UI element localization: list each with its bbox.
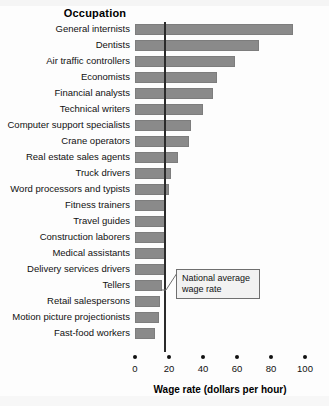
bar xyxy=(135,328,155,339)
bar xyxy=(135,152,178,163)
bar-row-label: Delivery services drivers xyxy=(27,262,130,276)
bar-row: Fitness trainers xyxy=(135,200,305,211)
bar xyxy=(135,280,162,291)
bar-row: Word processors and typists xyxy=(135,184,305,195)
bar xyxy=(135,200,166,211)
bar xyxy=(135,296,160,307)
bar xyxy=(135,312,159,323)
bar-row: Dentists xyxy=(135,40,305,51)
bar-row: Computer support specialists xyxy=(135,120,305,131)
x-axis-tick-label: 20 xyxy=(156,363,182,374)
bar-row-label: Technical writers xyxy=(60,102,130,116)
bar-row-label: Medical assistants xyxy=(52,246,130,260)
x-axis-tick-dot xyxy=(201,355,205,359)
bar xyxy=(135,248,165,259)
annotation-callout: National average wage rate xyxy=(176,269,260,299)
x-axis-tick-label: 60 xyxy=(224,363,250,374)
bar-row-label: Crane operators xyxy=(61,134,130,148)
bar xyxy=(135,56,235,67)
bar-row: Medical assistants xyxy=(135,248,305,259)
bar xyxy=(135,232,165,243)
bar-row: Truck drivers xyxy=(135,168,305,179)
bar-row-label: Truck drivers xyxy=(75,166,130,180)
x-axis-tick: 40 xyxy=(190,355,216,374)
x-axis-tick: 0 xyxy=(122,355,148,374)
bar-row: Financial analysts xyxy=(135,88,305,99)
bar xyxy=(135,264,165,275)
annotation-line-2: wage rate xyxy=(182,284,254,295)
x-axis-tick-dot xyxy=(235,355,239,359)
bar-row: Economists xyxy=(135,72,305,83)
x-axis-tick-label: 100 xyxy=(292,363,318,374)
bar-row: Real estate sales agents xyxy=(135,152,305,163)
x-axis-tick: 80 xyxy=(258,355,284,374)
x-axis-tick: 60 xyxy=(224,355,250,374)
x-axis-label: Wage rate (dollars per hour) xyxy=(115,384,325,395)
bar xyxy=(135,72,217,83)
bar xyxy=(135,88,213,99)
bar-row-label: Travel guides xyxy=(73,214,130,228)
bar-row-label: General internists xyxy=(56,22,130,36)
bar-row: Air traffic controllers xyxy=(135,56,305,67)
annotation-line-1: National average xyxy=(182,273,254,284)
x-axis-tick: 100 xyxy=(292,355,318,374)
bar-row: Motion picture projectionists xyxy=(135,312,305,323)
page-title: Occupation xyxy=(0,7,190,19)
x-axis-tick-label: 80 xyxy=(258,363,284,374)
bar-row-label: Construction laborers xyxy=(40,230,130,244)
x-axis-tick-dot xyxy=(303,355,307,359)
x-axis-tick: 20 xyxy=(156,355,182,374)
bar-row: Travel guides xyxy=(135,216,305,227)
bar-row: General internists xyxy=(135,24,305,35)
x-axis-tick-dot xyxy=(167,355,171,359)
x-axis-tick-label: 40 xyxy=(190,363,216,374)
x-axis-tick-dot xyxy=(133,355,137,359)
bar-row-label: Fast-food workers xyxy=(54,326,130,340)
bar-row-label: Computer support specialists xyxy=(8,118,131,132)
bar xyxy=(135,104,203,115)
bar-row: Construction laborers xyxy=(135,232,305,243)
bar-row-label: Financial analysts xyxy=(54,86,130,100)
bar-chart: Occupation General internistsDentistsAir… xyxy=(0,0,329,406)
bar-row: Fast-food workers xyxy=(135,328,305,339)
national-average-line xyxy=(164,22,166,352)
bar-row-label: Word processors and typists xyxy=(10,182,130,196)
bar-row: Technical writers xyxy=(135,104,305,115)
figure-page: Occupation General internistsDentistsAir… xyxy=(0,0,329,406)
bar-row-label: Economists xyxy=(81,70,130,84)
bar-row-label: Fitness trainers xyxy=(65,198,130,212)
bar-row: Crane operators xyxy=(135,136,305,147)
bar-row-label: Motion picture projectionists xyxy=(12,310,130,324)
bar-row-label: Dentists xyxy=(96,38,130,52)
bar-row-label: Tellers xyxy=(103,278,130,292)
bar-row-label: Retail salespersons xyxy=(47,294,130,308)
bar-row-label: Air traffic controllers xyxy=(46,54,130,68)
bar-row-label: Real estate sales agents xyxy=(26,150,130,164)
x-axis-tick-dot xyxy=(269,355,273,359)
bar xyxy=(135,216,165,227)
bar xyxy=(135,40,259,51)
bar xyxy=(135,136,189,147)
x-axis-tick-label: 0 xyxy=(122,363,148,374)
bar xyxy=(135,24,293,35)
